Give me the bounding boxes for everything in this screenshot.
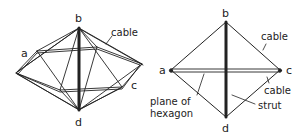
left-label-b: b: [75, 12, 82, 25]
right-label-d: d: [222, 122, 229, 135]
right-label-plane-line1: plane of: [150, 96, 191, 107]
strut-pointer: [232, 95, 255, 104]
plane-pointer: [197, 74, 204, 95]
left-label-d: d: [75, 116, 82, 129]
left-label-c: c: [131, 79, 137, 92]
right-label-plane-line2: hexagon: [150, 108, 193, 119]
left-label-a: a: [21, 47, 28, 60]
left-label-cable: cable: [111, 27, 138, 38]
right-label-cable-bottom: cable: [264, 85, 291, 96]
right-label-cable-top: cable: [261, 31, 288, 42]
vertex-c: [278, 69, 281, 72]
right-label-a: a: [159, 64, 166, 77]
cable-top-pointer: [263, 44, 266, 50]
right-label-strut: strut: [258, 100, 282, 111]
right-label-b: b: [222, 7, 229, 20]
diagram-canvas: b a c d cable b a c d cable cable strut …: [0, 0, 303, 137]
right-label-c: c: [286, 64, 292, 77]
vertex-a: [169, 69, 172, 72]
left-figure: [16, 28, 143, 110]
